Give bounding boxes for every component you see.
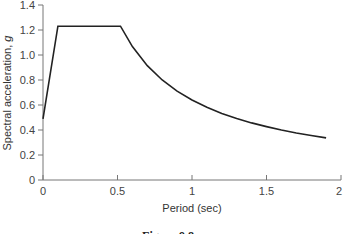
- x-tick-label: 0.5: [110, 185, 125, 197]
- x-tick-label: 0: [40, 185, 46, 197]
- spectrum-line: [43, 26, 326, 138]
- y-tick-label: 0.2: [20, 149, 35, 161]
- x-tick-label: 1.5: [259, 185, 274, 197]
- y-tick-label: 0.8: [20, 74, 35, 86]
- y-tick-label: 1.2: [20, 24, 35, 36]
- response-spectrum-chart: 00.20.40.60.81.01.21.400.511.52 Period (…: [0, 0, 344, 234]
- y-tick-label: 0: [29, 174, 35, 186]
- y-tick-label: 1.4: [20, 0, 35, 11]
- y-tick-label: 0.6: [20, 99, 35, 111]
- axes: [38, 5, 341, 180]
- y-tick-label: 0.4: [20, 124, 35, 136]
- y-tick-label: 1.0: [20, 49, 35, 61]
- tick-labels: 00.20.40.60.81.01.21.400.511.52: [20, 0, 342, 197]
- figure-caption: Figure 9.8: [142, 229, 194, 234]
- x-tick-label: 2: [336, 185, 342, 197]
- y-axis-label: Spectral acceleration, g: [1, 35, 13, 151]
- x-tick-label: 1: [189, 185, 195, 197]
- x-axis-label: Period (sec): [162, 202, 221, 214]
